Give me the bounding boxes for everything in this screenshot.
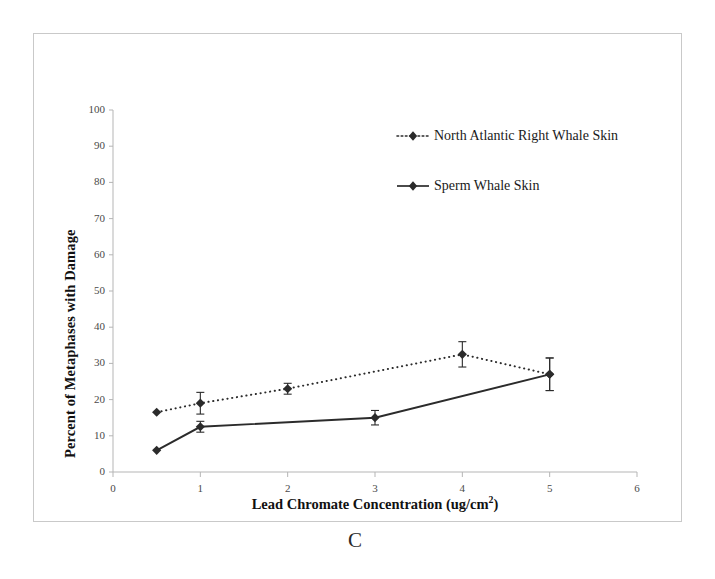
legend-label-1: Sperm Whale Skin	[434, 178, 540, 194]
series-north-atlantic-right-whale-skin	[152, 342, 554, 417]
data-point-marker	[196, 422, 205, 431]
legend-swatch-dotted-diamond-icon	[396, 129, 430, 143]
legend-item-north-atlantic-right-whale-skin[interactable]: North Atlantic Right Whale Skin	[396, 128, 618, 144]
y-tick-marks	[109, 110, 113, 472]
data-series-layer	[152, 342, 554, 455]
legend-swatch-solid-diamond-icon	[396, 179, 430, 193]
data-point-marker	[545, 370, 554, 379]
data-point-marker	[196, 399, 205, 408]
data-point-marker	[458, 350, 467, 359]
data-point-marker	[152, 446, 161, 455]
series-line	[157, 374, 550, 450]
data-point-marker	[283, 384, 292, 393]
series-line	[157, 354, 550, 412]
x-tick-marks	[113, 472, 637, 477]
data-point-marker	[152, 408, 161, 417]
legend-item-sperm-whale-skin[interactable]: Sperm Whale Skin	[396, 178, 540, 194]
figure-panel: Percent of Metaphases with Damage Lead C…	[0, 0, 715, 579]
panel-letter: C	[325, 528, 385, 553]
series-sperm-whale-skin	[152, 358, 554, 455]
legend-label-0: North Atlantic Right Whale Skin	[434, 128, 618, 144]
plot-canvas	[0, 0, 715, 579]
data-point-marker	[370, 413, 379, 422]
